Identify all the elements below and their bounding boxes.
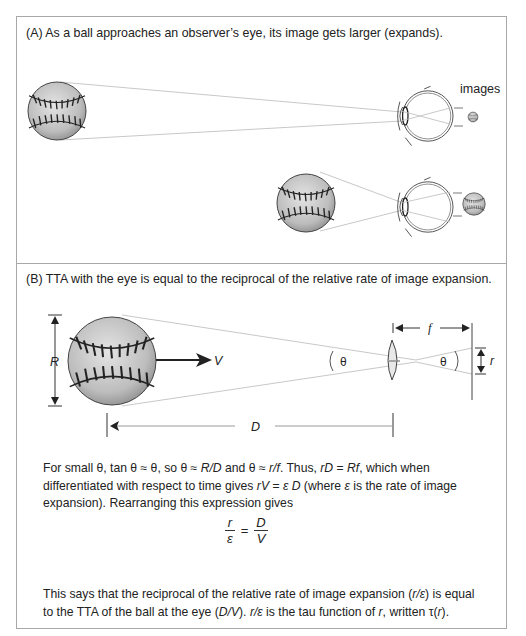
d-dimension [107, 413, 393, 437]
text: ). [239, 605, 250, 619]
r-dimension-image [475, 348, 486, 374]
text: (where [300, 479, 344, 493]
math-r-over-f: r/f [269, 461, 280, 475]
denominator: ε [225, 531, 235, 546]
numerator: r [225, 515, 235, 531]
label-r: r [490, 354, 495, 368]
math-Rf: Rf [347, 461, 359, 475]
denominator: V [254, 531, 267, 546]
fraction-r-over-epsilon: r ε [225, 515, 235, 546]
ball-near [277, 172, 403, 232]
label-D: D [251, 420, 260, 434]
text: This says that the reciprocal of the rel… [43, 587, 412, 601]
theta-arc-right [455, 351, 458, 371]
label-f: f [428, 321, 433, 335]
ball-large [68, 317, 156, 405]
image-large [463, 193, 485, 215]
text: , written τ( [383, 605, 438, 619]
image-small [468, 112, 478, 122]
math-r-over-epsilon: r/ε [412, 587, 425, 601]
math-rD: rD [320, 461, 333, 475]
explanation-paragraph-1: For small θ, tan θ ≈ θ, so θ ≈ R/D and θ… [43, 460, 483, 513]
equals-sign: = [241, 523, 249, 538]
f-dimension [393, 323, 470, 333]
label-theta-right: θ [440, 355, 447, 369]
lens [388, 340, 397, 380]
text: . Thus, [280, 461, 320, 475]
text: and θ ≈ [222, 461, 269, 475]
numerator: D [254, 515, 267, 531]
theta-arc-left [330, 351, 333, 371]
math-epsilon-D: ε D [283, 479, 301, 493]
ball-far [28, 82, 402, 140]
math-D-over-V: D/V [219, 605, 239, 619]
eye-near [398, 177, 453, 236]
text: = [333, 461, 347, 475]
eye-far [398, 86, 453, 145]
math-rV: rV [257, 479, 269, 493]
label-theta-left: θ [340, 355, 347, 369]
images-label: images [460, 82, 500, 96]
text: is the tau function of [263, 605, 379, 619]
text: ). [442, 605, 449, 619]
tau-equation: r ε = D V [225, 515, 268, 546]
explanation-paragraph-2: This says that the reciprocal of the rel… [43, 586, 483, 621]
text: For small θ, tan θ ≈ θ, so θ ≈ [43, 461, 201, 475]
math-r-over-epsilon: r/ε [250, 605, 263, 619]
label-R: R [50, 355, 59, 369]
math-R-over-D: R/D [201, 461, 222, 475]
label-V: V [214, 354, 224, 368]
velocity-arrow [156, 353, 212, 367]
text: = [269, 479, 283, 493]
fraction-D-over-V: D V [254, 515, 267, 546]
